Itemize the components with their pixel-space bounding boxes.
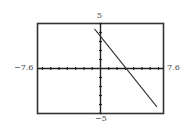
ymin-label: −5 (95, 115, 107, 123)
ymax-label: 5 (97, 12, 102, 20)
xmin-label: −7.6 (14, 64, 33, 72)
xmax-label: 7.6 (167, 64, 180, 72)
